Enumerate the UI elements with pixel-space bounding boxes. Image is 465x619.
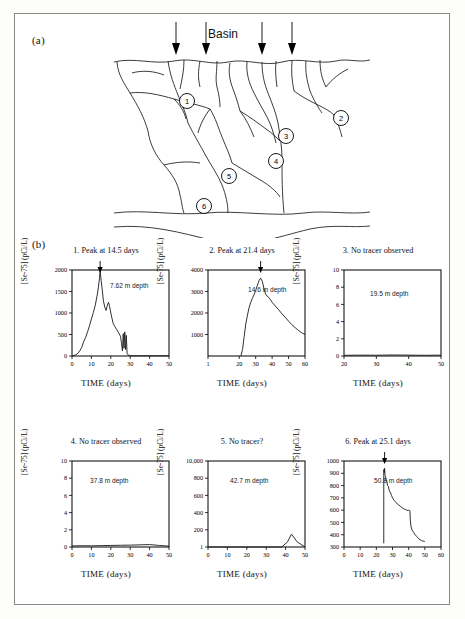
svg-text:30: 30 (373, 360, 379, 367)
svg-text:700: 700 (330, 494, 339, 501)
recharge-arrow-4 (288, 22, 296, 55)
lower-stratum-line (114, 226, 370, 238)
svg-text:2: 2 (64, 526, 67, 533)
chart-6-svg: 30040050060070080090010000102030405060 (308, 451, 448, 569)
chart-2-ylabel: [Se-75] (pCi/L) (156, 204, 165, 284)
svg-text:500: 500 (58, 331, 67, 338)
svg-text:50: 50 (438, 360, 444, 367)
svg-text:1500: 1500 (55, 288, 67, 295)
svg-text:3: 3 (284, 132, 288, 141)
chart-1-depth-note: 7.62 m depth (110, 282, 149, 289)
svg-text:2: 2 (336, 335, 339, 342)
svg-text:0: 0 (336, 352, 339, 359)
chart-6-title: 6. Peak at 25.1 days (308, 437, 448, 446)
chart-5-plot: [Se-75] (pCi/L) 42.7 m depth 12004006008… (172, 451, 312, 569)
svg-text:30: 30 (389, 551, 395, 558)
chart-5-xlabel: TIME (days) (172, 569, 312, 579)
chart-3-plot: [Se-75] (pCi/L) 19.5 m depth 02468102030… (308, 260, 448, 378)
svg-text:2000: 2000 (191, 309, 203, 316)
svg-text:0: 0 (64, 543, 67, 550)
svg-text:10: 10 (88, 551, 94, 558)
chart-panel-4: 4. No tracer observed [Se-75] (pCi/L) 37… (36, 437, 176, 587)
svg-text:4: 4 (274, 157, 278, 166)
node-marker-6: 6 (197, 199, 212, 214)
svg-text:300: 300 (330, 543, 339, 550)
water-table-line (114, 212, 370, 215)
chart-2-svg: 100020003000400012030405060 (172, 260, 312, 378)
svg-text:1000: 1000 (55, 309, 67, 316)
node-marker-2: 2 (334, 111, 349, 126)
node-marker-5: 5 (222, 169, 237, 184)
svg-text:40: 40 (406, 551, 412, 558)
svg-text:1: 1 (200, 543, 203, 550)
svg-text:1000: 1000 (327, 457, 339, 464)
chart-2-depth-note: 14.6 m depth (248, 286, 287, 293)
svg-text:1: 1 (206, 360, 209, 367)
svg-text:8: 8 (336, 283, 339, 290)
chart-4-ylabel: [Se-75] (pCi/L) (20, 395, 29, 475)
svg-text:5: 5 (227, 172, 231, 181)
chart-1-ylabel: [Se-75] (pCi/L) (20, 204, 29, 284)
svg-text:0: 0 (206, 551, 209, 558)
chart-panel-3: 3. No tracer observed [Se-75] (pCi/L) 19… (308, 246, 448, 396)
chart-4-xlabel: TIME (days) (36, 569, 176, 579)
chart-panel-5: 5. No tracer? [Se-75] (pCi/L) 42.7 m dep… (172, 437, 312, 587)
chart-1-title: 1. Peak at 14.5 days (36, 246, 176, 255)
ground-surface-line (114, 60, 370, 64)
svg-text:10,000: 10,000 (186, 457, 203, 464)
chart-panel-6: 6. Peak at 25.1 days [Se-75] (pCi/L) 50.… (308, 437, 448, 587)
svg-text:6: 6 (336, 301, 339, 308)
chart-2-plot: [Se-75] (pCi/L) 14.6 m depth 10002000300… (172, 260, 312, 378)
recharge-arrow-group (172, 22, 296, 55)
svg-text:0: 0 (64, 352, 67, 359)
svg-text:30: 30 (253, 360, 259, 367)
svg-text:4: 4 (64, 509, 67, 516)
svg-text:2000: 2000 (55, 266, 67, 273)
chart-5-depth-note: 42.7 m depth (230, 477, 269, 484)
svg-text:4000: 4000 (191, 266, 203, 273)
svg-text:0: 0 (342, 551, 345, 558)
chart-3-xlabel: TIME (days) (308, 378, 448, 388)
chart-5-title: 5. No tracer? (172, 437, 312, 446)
svg-text:2: 2 (339, 114, 343, 123)
chart-1-svg: 050010001500200001020304050 (36, 260, 176, 378)
svg-text:1000: 1000 (191, 331, 203, 338)
chart-3-depth-note: 19.5 m depth (370, 290, 409, 297)
svg-text:20: 20 (244, 551, 250, 558)
svg-text:800: 800 (194, 474, 203, 481)
chart-2-xlabel: TIME (days) (172, 378, 312, 388)
chart-3-ylabel: [Se-75] (pCi/L) (292, 204, 301, 284)
chart-5-ylabel: [Se-75] (pCi/L) (156, 395, 165, 475)
svg-text:50: 50 (285, 360, 291, 367)
svg-text:40: 40 (147, 551, 153, 558)
figure-page: (a) Basin (0, 0, 465, 619)
chart-4-depth-note: 37.8 m depth (90, 477, 129, 484)
recharge-arrow-1 (172, 22, 180, 55)
chart-4-svg: 024681001020304050 (36, 451, 176, 569)
chart-6-ylabel: [Se-75] (pCi/L) (292, 395, 301, 475)
svg-text:8: 8 (64, 474, 67, 481)
svg-text:0: 0 (70, 360, 73, 367)
svg-text:20: 20 (341, 360, 347, 367)
svg-text:40: 40 (283, 551, 289, 558)
svg-text:10: 10 (88, 360, 94, 367)
svg-text:30: 30 (127, 360, 133, 367)
svg-text:20: 20 (108, 551, 114, 558)
svg-text:6: 6 (64, 492, 67, 499)
svg-text:800: 800 (330, 482, 339, 489)
node-marker-1: 1 (180, 94, 195, 109)
svg-text:600: 600 (194, 492, 203, 499)
recharge-arrow-3 (258, 22, 266, 55)
svg-text:40: 40 (147, 360, 153, 367)
chart-3-svg: 024681020304050 (308, 260, 448, 378)
chart-3-title: 3. No tracer observed (308, 246, 448, 255)
chart-2-title: 2. Peak at 21.4 days (172, 246, 312, 255)
svg-text:1: 1 (185, 97, 189, 106)
svg-text:10: 10 (224, 551, 230, 558)
svg-text:3000: 3000 (191, 288, 203, 295)
chart-4-title: 4. No tracer observed (36, 437, 176, 446)
svg-text:20: 20 (108, 360, 114, 367)
svg-text:30: 30 (263, 551, 269, 558)
chart-6-plot: [Se-75] (pCi/L) 50.8 m depth 30040050060… (308, 451, 448, 569)
svg-text:60: 60 (438, 551, 444, 558)
